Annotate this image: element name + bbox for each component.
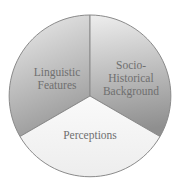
label-perceptions: Perceptions <box>63 129 117 142</box>
label-socio-line1: Socio- <box>116 59 146 71</box>
label-socio-line3: Background <box>103 85 159 98</box>
label-socio-line2: Historical <box>108 72 153 84</box>
label-linguistic-line2: Features <box>38 79 77 91</box>
label-linguistic-line1: Linguistic <box>34 66 81 79</box>
segment-diagram: Linguistic Features Socio- Historical Ba… <box>0 0 180 185</box>
